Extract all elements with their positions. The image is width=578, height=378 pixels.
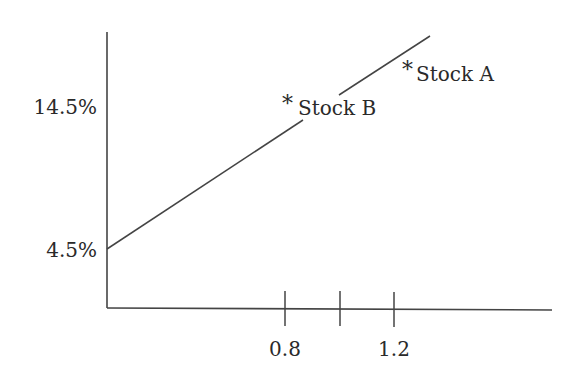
chart-canvas: 14.5% 4.5% 0.8 1.2 * Stock B * Stock A xyxy=(0,0,578,378)
stock-a-label: Stock A xyxy=(416,62,494,86)
x-axis xyxy=(107,308,552,310)
stock-a-marker: * xyxy=(402,57,413,82)
stock-b-label: Stock B xyxy=(298,96,376,120)
y-tick-label-low: 4.5% xyxy=(46,238,97,262)
y-tick-label-high: 14.5% xyxy=(33,95,97,119)
x-tick-label-0-8: 0.8 xyxy=(269,337,301,361)
stock-b-marker: * xyxy=(282,91,293,116)
sml-segment-1 xyxy=(107,120,303,249)
x-tick-label-1-2: 1.2 xyxy=(378,337,410,361)
